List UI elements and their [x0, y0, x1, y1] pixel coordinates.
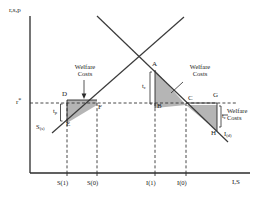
- welfare-costs-annotation-left: Welfare Costs: [64, 64, 106, 78]
- welfare-costs-annotation-right: Welfare Costs: [227, 108, 255, 122]
- investment-demand-curve-label: I(d): [224, 131, 232, 139]
- tax-wedge-middle-subscript: c: [144, 85, 146, 90]
- welfare-cost-diagram: r,s,p I,S r* S(1) S(0) I(1) I(0) A B C D…: [0, 0, 255, 203]
- x-tick-label-i0: I(0): [177, 180, 187, 187]
- tax-wedge-bracket-left: [61, 104, 63, 121]
- tax-wedge-left-subscript: p: [55, 110, 57, 115]
- welfare-costs-annotation-middle: Welfare Costs: [178, 64, 222, 78]
- diagram-canvas: [0, 0, 255, 203]
- point-label-a: A: [152, 61, 157, 68]
- r-star-label: r*: [16, 97, 21, 106]
- point-label-e: E: [66, 121, 70, 128]
- savings-supply-curve-label: S(s): [36, 124, 44, 132]
- point-label-b: B: [157, 103, 162, 110]
- tax-wedge-bracket-middle: [150, 72, 152, 104]
- tax-wedge-label-right: tc: [222, 113, 226, 121]
- point-label-g: G: [213, 92, 218, 99]
- point-label-f: F: [98, 104, 102, 111]
- tax-wedge-bracket-right: [219, 106, 221, 127]
- r-star-superscript: *: [18, 97, 21, 103]
- tax-wedge-label-left: tp: [53, 108, 57, 116]
- tax-wedge-right-subscript: c: [224, 115, 226, 120]
- x-tick-label-s0: S(0): [87, 180, 98, 187]
- leader-arrowhead-left: [82, 94, 87, 100]
- x-tick-label-i1: I(1): [146, 180, 156, 187]
- point-label-h: H: [211, 130, 216, 137]
- x-tick-label-s1: S(1): [57, 180, 68, 187]
- investment-demand-curve: [97, 16, 228, 142]
- point-label-c: C: [188, 95, 193, 102]
- point-label-d: D: [62, 91, 67, 98]
- tax-wedge-label-middle: tc: [142, 83, 146, 91]
- x-axis-label: I,S: [232, 179, 240, 186]
- welfare-costs-right-line2: Costs: [227, 115, 255, 122]
- welfare-costs-middle-line2: Costs: [178, 71, 222, 78]
- savings-curve-subscript: (s): [40, 126, 45, 131]
- leader-line-middle: [171, 82, 183, 93]
- welfare-costs-left-line2: Costs: [64, 71, 106, 78]
- y-axis-label: r,s,p: [9, 7, 21, 14]
- investment-curve-subscript: (d): [226, 133, 231, 138]
